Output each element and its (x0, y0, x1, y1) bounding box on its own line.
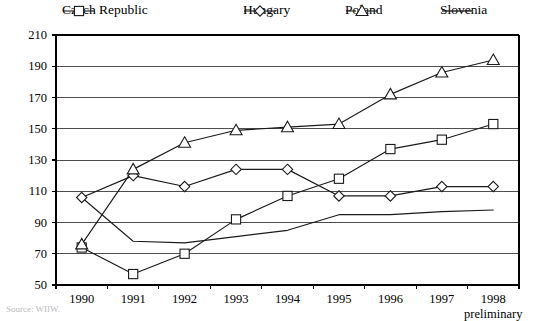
y-axis-label: 130 (0, 154, 47, 167)
x-axis-label: 1997 (416, 293, 467, 306)
x-axis-label: 1992 (159, 293, 210, 306)
data-point-czech-republic-1998 (489, 119, 498, 128)
y-axis-label: 90 (0, 217, 47, 230)
data-point-hungary-1997 (437, 181, 447, 191)
series-line-poland (82, 60, 494, 244)
data-point-hungary-1994 (282, 164, 292, 174)
x-axis-label: 1991 (107, 293, 158, 306)
source-note: Source: WIIW. (6, 305, 60, 314)
data-point-czech-republic-1996 (386, 144, 395, 153)
y-axis-label: 210 (0, 29, 47, 42)
data-point-czech-republic-1995 (334, 174, 343, 183)
data-point-czech-republic-1991 (129, 269, 138, 278)
x-axis-label: 1995 (313, 293, 364, 306)
series-line-slovenia (82, 198, 494, 243)
data-point-czech-republic-1992 (180, 249, 189, 258)
data-point-czech-republic-1993 (231, 215, 240, 224)
data-point-poland-1998 (487, 54, 499, 65)
data-point-czech-republic-1997 (437, 135, 446, 144)
data-point-czech-republic-1994 (283, 191, 292, 200)
x-axis-label: 1990 (56, 293, 107, 306)
data-point-hungary-1993 (231, 164, 241, 174)
data-point-hungary-1995 (334, 191, 344, 201)
x-axis-label: 1994 (262, 293, 313, 306)
x-axis-note: preliminary (454, 308, 533, 321)
data-point-hungary-1992 (179, 181, 189, 191)
data-point-hungary-1996 (385, 191, 395, 201)
x-axis-label: 1993 (210, 293, 261, 306)
data-point-hungary-1998 (488, 181, 498, 191)
y-axis-label: 70 (0, 248, 47, 261)
y-axis-label: 170 (0, 92, 47, 105)
data-point-poland-1996 (384, 88, 396, 99)
data-point-poland-1995 (333, 118, 345, 129)
x-axis-label: 1998 (468, 293, 519, 306)
y-axis-label: 150 (0, 123, 47, 136)
x-axis-label: 1996 (365, 293, 416, 306)
data-point-poland-1991 (127, 163, 139, 174)
y-axis-label: 190 (0, 60, 47, 73)
y-axis-label: 50 (0, 279, 47, 292)
y-axis-label: 110 (0, 185, 47, 198)
